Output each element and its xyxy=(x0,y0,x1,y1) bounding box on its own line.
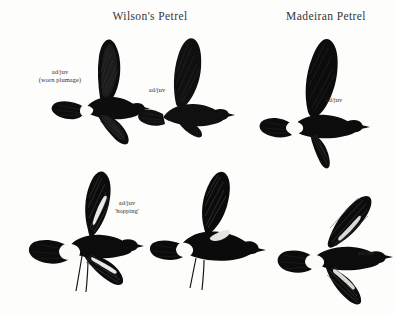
bird-figure-wilsons-lower-right xyxy=(148,170,270,292)
caption-line-1: ad/juv xyxy=(358,249,375,256)
caption-line-1: ad/juv xyxy=(119,199,136,206)
caption-wilsons-lower-hopping: ad/juv 'hopping' xyxy=(115,199,139,215)
caption-line-1: ad/juv xyxy=(326,96,343,103)
species-title-madeiran-petrel: Madeiran Petrel xyxy=(286,10,366,22)
caption-madeiran-lower: ad/juv xyxy=(358,249,375,257)
caption-line-2: 'hopping' xyxy=(115,207,139,215)
bird-figure-madeiran-lower xyxy=(270,188,396,310)
illustration-plate: Wilson's Petrel Madeiran Petrel xyxy=(0,0,396,315)
bird-figure-wilsons-lower-left xyxy=(22,170,150,294)
species-title-wilsons-petrel: Wilson's Petrel xyxy=(112,10,187,22)
caption-line-2: (worn plumage) xyxy=(39,76,81,84)
caption-wilsons-upper-left: ad/juv (worn plumage) xyxy=(39,68,81,84)
caption-line-1: ad/juv xyxy=(52,68,69,75)
caption-madeiran-upper: ad/juv xyxy=(326,96,343,104)
caption-line-1: ad/juv xyxy=(149,86,166,93)
bird-figure-madeiran-upper xyxy=(254,30,382,146)
caption-wilsons-upper-right: ad/juv xyxy=(149,86,166,94)
